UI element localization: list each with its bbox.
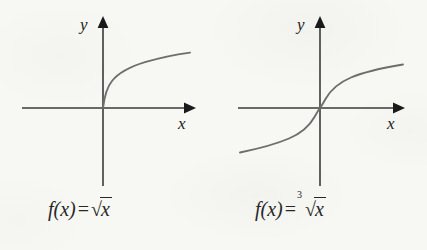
- x-axis-arrowhead-icon: [393, 103, 405, 114]
- x-axis-label: x: [178, 115, 186, 132]
- radical-index: 3: [297, 190, 302, 200]
- y-axis-label: y: [297, 16, 305, 33]
- curve-sqrt: [103, 53, 190, 108]
- radical-cbrt: 3√x: [298, 197, 326, 219]
- figure-root: y x f(x)=√x y x f(x)=3√x: [0, 0, 427, 250]
- y-axis-arrowhead-icon: [315, 16, 326, 28]
- radicand: x: [100, 197, 112, 219]
- x-axis-label: x: [387, 115, 395, 132]
- formula-equals: =: [76, 198, 91, 220]
- formula-arg: (x): [54, 198, 76, 220]
- formula-cbrt: f(x)=3√x: [255, 197, 326, 219]
- plot-panel-sqrt: y x f(x)=√x: [0, 0, 214, 250]
- formula-sqrt: f(x)=√x: [48, 197, 112, 219]
- x-axis-arrowhead-icon: [184, 103, 196, 114]
- plot-panel-cbrt: y x f(x)=3√x: [213, 0, 427, 250]
- y-axis-arrowhead-icon: [98, 16, 109, 28]
- radical-sqrt: √x: [91, 197, 112, 219]
- y-axis-label: y: [80, 16, 88, 33]
- formula-equals: =: [283, 198, 298, 220]
- radicand: x: [314, 197, 326, 219]
- formula-arg: (x): [261, 198, 283, 220]
